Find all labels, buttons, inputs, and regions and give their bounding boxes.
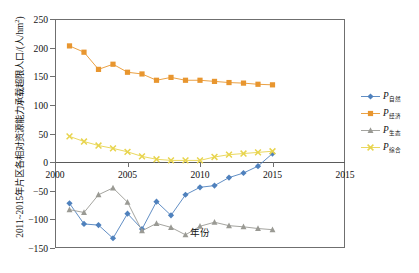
legend-label: P自然 <box>383 91 401 103</box>
series-cross <box>67 133 276 163</box>
data-point-marker <box>110 62 115 67</box>
data-point-marker <box>182 192 188 198</box>
legend-label: P生态 <box>383 125 401 137</box>
legend-label-subscript: 综合 <box>389 147 401 153</box>
legend-item-cross[interactable]: P综合 <box>360 139 419 156</box>
data-point-marker <box>66 200 72 206</box>
data-point-marker <box>368 111 373 116</box>
y-axis-tick-label: −50 <box>33 185 48 196</box>
legend-label-subscript: 经济 <box>389 113 401 119</box>
legend-label-subscript: 自然 <box>389 96 401 102</box>
data-point-marker <box>125 149 131 155</box>
data-point-marker <box>240 170 246 176</box>
chart-legend: P自然P经济P生态P综合 <box>360 88 419 156</box>
data-point-marker <box>211 182 217 188</box>
chart-figure: 2011~2015年片区各相对资源能力承载超限人口/(人/hm2) 250200… <box>0 0 419 273</box>
data-series-layer <box>55 19 345 248</box>
data-point-marker <box>168 75 173 80</box>
y-axis-tick-label: 250 <box>34 14 48 25</box>
y-axis-title: 2011~2015年片区各相对资源能力承载超限人口/(人/hm2) <box>12 2 26 252</box>
data-point-marker <box>197 78 202 83</box>
legend-item-square[interactable]: P经济 <box>360 105 419 122</box>
data-point-marker <box>154 78 159 83</box>
legend-swatch-icon <box>360 108 381 119</box>
plot-area: 250200150100500−50−100−150 2000200520102… <box>55 19 345 248</box>
data-point-marker <box>96 192 102 198</box>
legend-item-triangle[interactable]: P生态 <box>360 122 419 139</box>
y-axis-title-superscript: 2 <box>13 19 20 22</box>
data-point-marker <box>212 79 217 84</box>
legend-label: P综合 <box>383 142 401 154</box>
y-axis-tick-label: 100 <box>34 99 48 110</box>
data-point-marker <box>67 43 72 48</box>
data-point-marker <box>270 82 275 87</box>
y-axis-tick-label: 200 <box>34 42 48 53</box>
data-point-marker <box>226 174 232 180</box>
data-point-marker <box>197 184 203 190</box>
x-axis-title: 年份 <box>55 225 345 239</box>
data-point-marker <box>81 139 87 145</box>
y-axis-tick-label: −100 <box>28 214 48 225</box>
data-point-marker <box>139 71 144 76</box>
data-point-marker <box>81 50 86 55</box>
data-point-marker <box>255 82 260 87</box>
data-point-marker <box>367 93 373 99</box>
y-axis-tick-label: 0 <box>43 157 48 168</box>
data-point-marker <box>241 81 246 86</box>
data-point-marker <box>125 70 130 75</box>
y-axis-tick <box>50 248 55 249</box>
legend-swatch-icon <box>360 125 381 136</box>
data-point-marker <box>212 219 218 225</box>
data-point-marker <box>67 206 73 212</box>
legend-label-subscript: 生态 <box>389 130 401 136</box>
legend-swatch-icon <box>360 91 381 102</box>
data-point-marker <box>183 78 188 83</box>
legend-item-diamond[interactable]: P自然 <box>360 88 419 105</box>
y-axis-tick-label: 150 <box>34 71 48 82</box>
legend-label: P经济 <box>383 108 401 120</box>
legend-swatch-icon <box>360 142 381 153</box>
data-point-marker <box>226 80 231 85</box>
series-square <box>67 43 275 87</box>
data-point-marker <box>96 67 101 72</box>
y-axis-title-text: 2011~2015年片区各相对资源能力承载超限人口/(人/hm <box>15 23 25 238</box>
data-point-marker <box>110 185 116 191</box>
series-line <box>70 136 273 160</box>
y-axis-tick-label: 50 <box>38 128 48 139</box>
y-axis-tick-label: −150 <box>28 243 48 254</box>
y-axis-title-tail: ) <box>15 16 25 19</box>
data-point-marker <box>67 133 73 139</box>
